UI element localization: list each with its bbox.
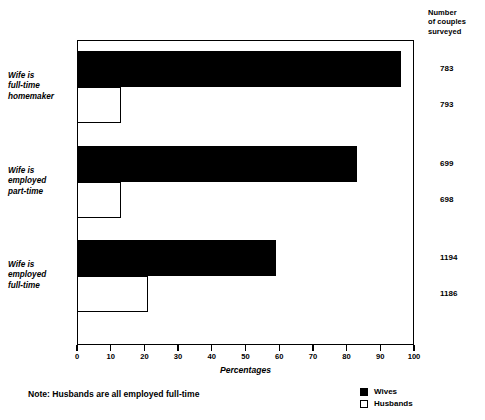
x-tick-label-0: 0 (65, 352, 89, 361)
count-husbands-employed-full-time: 1186 (440, 289, 485, 298)
count-husbands-employed-part-time: 698 (440, 195, 485, 204)
x-tick-0 (76, 345, 77, 351)
x-tick-label-10: 10 (99, 352, 123, 361)
bar-husbands-employed-part-time (77, 182, 121, 218)
right-column-header: Number of couples surveyed (428, 8, 485, 36)
right-column-header-line-1: Number (428, 8, 485, 17)
x-tick-label-20: 20 (132, 352, 156, 361)
filled-square-icon (360, 388, 368, 396)
count-wives-full-time-homemaker: 783 (440, 64, 485, 73)
x-tick-90 (380, 345, 381, 351)
chart-figure: Number of couples surveyed Wife isfull-t… (0, 0, 485, 420)
hollow-square-icon (360, 400, 368, 408)
x-tick-label-30: 30 (166, 352, 190, 361)
category-label-line-3: full-time (8, 281, 76, 291)
x-tick-20 (144, 345, 145, 351)
category-label-line-2: employed (8, 270, 76, 280)
legend-item-husbands: Husbands (360, 398, 413, 409)
x-tick-30 (177, 345, 178, 351)
x-tick-50 (245, 345, 246, 351)
category-label-line-1: Wife is (8, 260, 76, 270)
right-column-header-line-3: surveyed (428, 27, 485, 36)
category-label-line-1: Wife is (8, 71, 76, 81)
x-tick-label-70: 70 (301, 352, 325, 361)
category-label-line-2: full-time (8, 81, 76, 91)
legend-item-wives: Wives (360, 386, 413, 397)
x-tick-70 (312, 345, 313, 351)
x-tick-80 (346, 345, 347, 351)
bar-husbands-employed-full-time (77, 276, 148, 312)
legend-label-wives: Wives (374, 387, 397, 396)
count-wives-employed-full-time: 1194 (440, 253, 485, 262)
chart-legend: Wives Husbands (360, 386, 413, 410)
category-label-employed-part-time: Wife isemployedpart-time (8, 166, 76, 197)
category-label-line-3: part-time (8, 187, 76, 197)
x-tick-label-50: 50 (234, 352, 258, 361)
legend-label-husbands: Husbands (374, 399, 413, 408)
x-tick-100 (413, 345, 414, 351)
x-tick-40 (211, 345, 212, 351)
category-label-line-2: employed (8, 176, 76, 186)
x-tick-label-80: 80 (335, 352, 359, 361)
category-label-line-3: homemaker (8, 92, 76, 102)
x-axis-ticks (77, 345, 414, 351)
category-label-employed-full-time: Wife isemployedfull-time (8, 260, 76, 291)
bar-wives-employed-part-time (77, 146, 357, 182)
bar-husbands-full-time-homemaker (77, 87, 121, 123)
category-label-line-1: Wife is (8, 166, 76, 176)
x-tick-label-40: 40 (200, 352, 224, 361)
count-wives-employed-part-time: 699 (440, 159, 485, 168)
count-husbands-full-time-homemaker: 793 (440, 100, 485, 109)
bar-wives-full-time-homemaker (77, 51, 401, 87)
category-label-full-time-homemaker: Wife isfull-timehomemaker (8, 71, 76, 102)
chart-note: Note: Husbands are all employed full-tim… (28, 389, 199, 399)
x-tick-label-100: 100 (402, 352, 426, 361)
right-column-header-line-2: of couples (428, 17, 485, 26)
x-tick-label-60: 60 (267, 352, 291, 361)
x-axis-title: Percentages (77, 365, 414, 375)
bar-wives-employed-full-time (77, 240, 276, 276)
x-tick-label-90: 90 (368, 352, 392, 361)
bars-layer (77, 40, 414, 345)
x-tick-10 (110, 345, 111, 351)
x-tick-60 (279, 345, 280, 351)
